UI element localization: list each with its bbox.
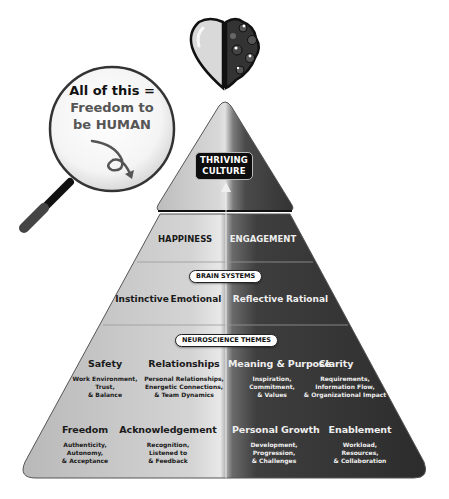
theme-detail: Trust, (65, 383, 145, 391)
theme-detail: Work Environment, (65, 375, 145, 383)
theme-detail: & Organizational Impact (300, 391, 390, 399)
theme-detail: & Challenges (232, 457, 316, 465)
thriving-culture-badge: THRIVING CULTURE (195, 152, 253, 180)
theme-detail: & Balance (65, 391, 145, 399)
theme-title: Safety (65, 358, 145, 369)
theme-detail: Energetic Connections, (140, 383, 228, 391)
culture-label: CULTURE (196, 166, 252, 177)
theme-detail: & Acceptance (50, 457, 120, 465)
theme-title: Personal Growth (232, 424, 316, 435)
theme-title: Acknowledgement (118, 424, 218, 435)
brain-system-instinctive: Instinctive (112, 294, 172, 304)
theme-detail: Workload, (320, 441, 400, 449)
magnifier-line-2: Freedom to (62, 99, 162, 116)
thriving-label: THRIVING (196, 155, 252, 166)
magnifier-line-3: be HUMAN (62, 116, 162, 133)
brain-system-emotional: Emotional (168, 294, 224, 304)
magnifier-line-1: All of this = (62, 82, 162, 99)
theme-detail: Information Flow, (300, 383, 390, 391)
brain-system-rational: Rational (282, 294, 332, 304)
theme-personal-growth: Personal Growth Development, Progression… (232, 424, 316, 465)
theme-detail: Listened to (118, 449, 218, 457)
heart-brain-icon (191, 19, 259, 88)
theme-title: Relationships (140, 358, 228, 369)
theme-detail: Recognition, (118, 441, 218, 449)
theme-title: Freedom (50, 424, 120, 435)
theme-relationships: Relationships Personal Relationships, En… (140, 358, 228, 399)
brain-systems-badge: BRAIN SYSTEMS (189, 270, 262, 283)
theme-detail: Progression, (232, 449, 316, 457)
theme-detail: Autonomy, (50, 449, 120, 457)
theme-detail: & Team Dynamics (140, 391, 228, 399)
theme-title: Enablement (320, 424, 400, 435)
neuroscience-themes-badge: NEUROSCIENCE THEMES (175, 334, 278, 347)
theme-acknowledgement: Acknowledgement Recognition, Listened to… (118, 424, 218, 465)
happiness-label: HAPPINESS (150, 234, 220, 244)
theme-detail: Resources, (320, 449, 400, 457)
theme-detail: Authenticity, (50, 441, 120, 449)
theme-detail: Personal Relationships, (140, 375, 228, 383)
theme-safety: Safety Work Environment, Trust, & Balanc… (65, 358, 145, 399)
theme-enablement: Enablement Workload, Resources, & Collab… (320, 424, 400, 465)
theme-detail: Development, (232, 441, 316, 449)
theme-detail: & Feedback (118, 457, 218, 465)
theme-title: Clarity (282, 358, 390, 369)
theme-freedom: Freedom Authenticity, Autonomy, & Accept… (50, 424, 120, 465)
brain-system-reflective: Reflective (230, 294, 286, 304)
engagement-label: ENGAGEMENT (228, 234, 298, 244)
theme-detail: Requirements, (300, 375, 390, 383)
theme-detail: & Collaboration (320, 457, 400, 465)
theme-clarity: Clarity Requirements, Information Flow, … (300, 358, 390, 399)
